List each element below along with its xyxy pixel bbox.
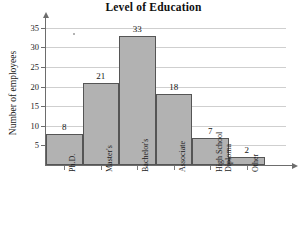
x-tick-mark xyxy=(101,166,102,170)
x-tick-mark xyxy=(64,166,65,170)
y-axis-arrow-icon xyxy=(43,12,49,18)
x-category-label: Bachelor's xyxy=(141,139,150,172)
x-tick-mark xyxy=(137,166,138,170)
y-tick-label: 20 xyxy=(17,82,39,92)
bar-value-label: 21 xyxy=(83,71,120,81)
bar-chart-figure: Level of Education Number of employees 5… xyxy=(0,0,307,226)
bar xyxy=(46,134,83,165)
x-category-label: Other xyxy=(251,154,260,172)
plot-area: 821331872 xyxy=(46,20,292,165)
x-category-label: High SchoolDiploma xyxy=(215,132,233,172)
y-tick-label: 30 xyxy=(17,42,39,52)
y-tick-label: 15 xyxy=(17,101,39,111)
x-axis-arrow-icon xyxy=(292,163,298,169)
y-tick-label: 25 xyxy=(17,62,39,72)
scan-artifact-speck xyxy=(73,33,75,35)
x-tick-mark xyxy=(247,166,248,170)
x-tick-mark xyxy=(174,166,175,170)
x-category-label: Associate xyxy=(178,141,187,172)
y-tick-label: 35 xyxy=(17,23,39,33)
x-category-label: Master's xyxy=(105,145,114,172)
y-tick-label: 5 xyxy=(17,140,39,150)
bar-value-label: 18 xyxy=(156,82,193,92)
gridline xyxy=(46,28,286,29)
gridline xyxy=(46,47,286,48)
x-category-label-line: High School xyxy=(215,132,224,172)
gridline xyxy=(46,67,286,68)
bar-value-label: 33 xyxy=(119,24,156,34)
x-category-label: Ph.D. xyxy=(68,154,77,172)
x-tick-mark xyxy=(210,166,211,170)
x-category-label-line: Diploma xyxy=(224,132,233,172)
bar xyxy=(119,36,156,165)
bar-value-label: 8 xyxy=(46,122,83,132)
y-tick-label: 10 xyxy=(17,121,39,131)
